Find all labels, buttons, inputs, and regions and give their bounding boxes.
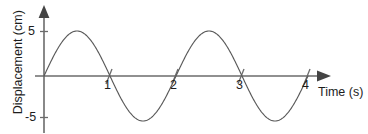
y-axis-arrow-icon <box>39 5 50 18</box>
x-tick-label-4: 4 <box>302 79 309 92</box>
x-tick-label-3: 3 <box>236 79 243 92</box>
plot-canvas <box>0 0 368 134</box>
y-axis-title: Displacement (cm) <box>12 0 25 127</box>
x-tick-label-2: 2 <box>170 79 177 92</box>
y-tick-label-5: 5 <box>28 25 35 38</box>
y-tick-label-minus-5: -5 <box>25 111 36 124</box>
x-axis-arrow-icon <box>317 71 331 82</box>
x-tick-label-1: 1 <box>104 79 111 92</box>
graph-figure: Displacement (cm) Time (s) 5 -5 1 2 3 4 <box>0 0 368 134</box>
x-axis-title: Time (s) <box>318 86 363 99</box>
